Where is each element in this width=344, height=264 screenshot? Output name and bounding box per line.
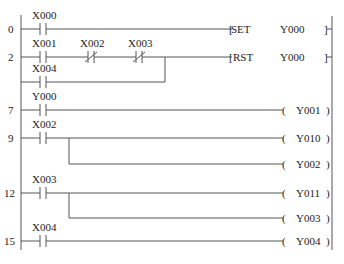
coil-open-icon: ( (282, 158, 286, 171)
contact-label: Y000 (32, 90, 57, 102)
no-contact-icon[interactable] (40, 132, 46, 144)
no-contact-icon[interactable] (40, 187, 46, 199)
no-contact-icon[interactable] (40, 235, 46, 247)
rung-2: 2 X001 X002 X003 X004 [ RST Y000 ] (8, 37, 332, 88)
contact-label: X004 (32, 221, 57, 233)
contact-label: X000 (32, 9, 57, 21)
set-instruction: SET (231, 23, 251, 35)
ladder-diagram: 0 X000 SET Y000 ] [ 2 X001 X002 X003 (0, 0, 344, 264)
coil-close-icon: ) (326, 132, 330, 145)
coil-open-icon: ( (282, 187, 286, 200)
contact-label: X002 (80, 37, 104, 49)
coil-close-icon: ) (326, 235, 330, 248)
coil-close-icon: ) (326, 158, 330, 171)
no-contact-icon[interactable] (40, 23, 46, 35)
contact-label: X002 (32, 118, 56, 130)
step-number: 0 (8, 23, 14, 35)
no-contact-icon[interactable] (40, 104, 46, 116)
instruction-operand: Y000 (280, 23, 305, 35)
no-contact-icon[interactable] (40, 76, 46, 88)
step-number: 15 (4, 235, 16, 247)
coil-close-icon: ) (326, 187, 330, 200)
step-number: 7 (8, 104, 14, 116)
rung-12: 12 X003 ( Y011 ) ( Y003 ) (4, 173, 330, 225)
contact-label: X003 (128, 37, 153, 49)
coil-operand: Y011 (296, 187, 320, 199)
coil-open-icon: ( (282, 132, 286, 145)
contact-label: X004 (32, 62, 57, 74)
contact-label: X003 (32, 173, 57, 185)
contact-label: X001 (32, 37, 56, 49)
coil-operand: Y002 (296, 158, 320, 170)
step-number: 9 (8, 132, 14, 144)
step-number: 12 (4, 187, 15, 199)
rung-7: 7 Y000 ( Y001 ) (8, 90, 330, 117)
rst-instruction: RST (233, 51, 253, 63)
rung-9: 9 X002 ( Y010 ) ( Y002 ) (8, 118, 330, 171)
rung-15: 15 X004 ( Y004 ) (4, 221, 330, 248)
coil-open-icon: ( (282, 235, 286, 248)
coil-open-icon: ( (282, 104, 286, 117)
coil-operand: Y004 (296, 235, 321, 247)
instruction-operand: Y000 (280, 51, 305, 63)
coil-operand: Y001 (296, 104, 320, 116)
bracket-icon: ] (324, 23, 328, 35)
coil-open-icon: ( (282, 212, 286, 225)
rung-0: 0 X000 SET Y000 ] [ (8, 9, 332, 35)
coil-operand: Y003 (296, 212, 321, 224)
coil-close-icon: ) (326, 104, 330, 117)
coil-close-icon: ) (326, 212, 330, 225)
step-number: 2 (8, 51, 14, 63)
coil-operand: Y010 (296, 132, 321, 144)
bracket-icon: [ (229, 23, 233, 35)
